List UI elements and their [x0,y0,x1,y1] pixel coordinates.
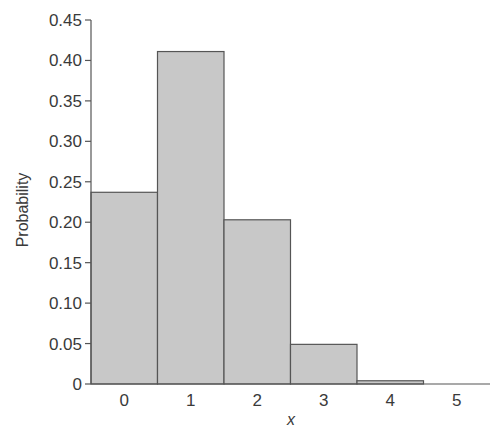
x-tick-label: 5 [452,391,461,410]
bar-0 [91,192,158,384]
x-axis: 012345 [91,384,490,410]
y-tick-label: 0.20 [49,213,82,232]
x-tick-label: 2 [253,391,262,410]
bar-1 [158,52,225,384]
y-tick-label: 0.40 [49,51,82,70]
x-tick-label: 4 [386,391,395,410]
x-tick-label: 3 [319,391,328,410]
y-tick-label: 0.25 [49,173,82,192]
y-tick-label: 0.05 [49,335,82,354]
y-tick-label: 0.35 [49,92,82,111]
x-axis-title: x [286,411,296,428]
x-tick-label: 1 [186,391,195,410]
probability-histogram: 00.050.100.150.200.250.300.350.400.45 01… [0,0,498,442]
bar-2 [224,220,291,384]
y-axis: 00.050.100.150.200.250.300.350.400.45 [49,11,91,394]
y-axis-title: Probability [14,173,31,248]
bars-group [91,52,424,384]
y-tick-label: 0.10 [49,294,82,313]
y-tick-label: 0.15 [49,254,82,273]
y-tick-label: 0.45 [49,11,82,30]
y-tick-label: 0.30 [49,132,82,151]
y-tick-label: 0 [73,375,82,394]
x-tick-label: 0 [120,391,129,410]
bar-3 [291,344,358,384]
